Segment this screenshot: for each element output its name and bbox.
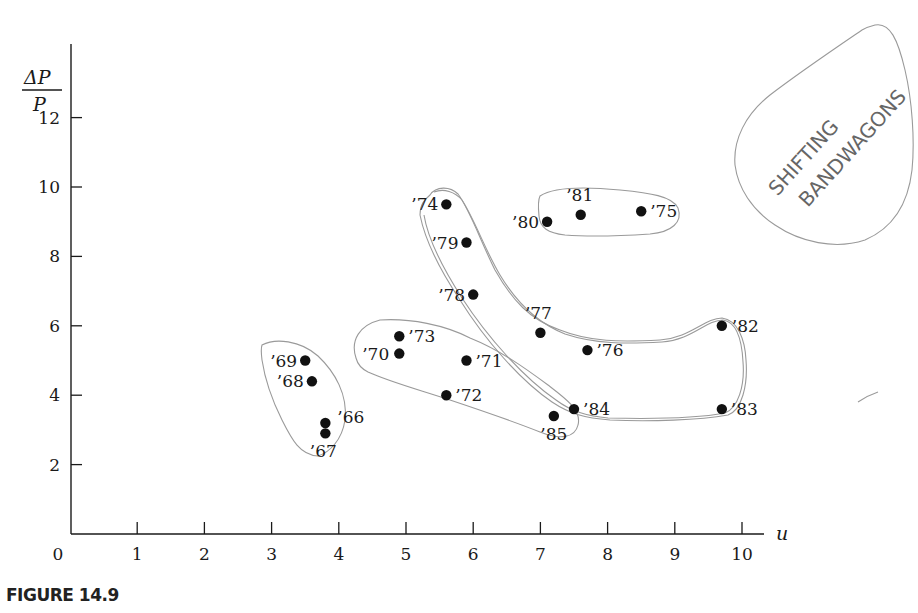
data-point: ’77 <box>525 303 552 338</box>
x-axis-title: u <box>776 522 788 544</box>
data-point: ’67 <box>310 428 337 461</box>
x-tick-label: 6 <box>468 544 479 564</box>
data-point: ’81 <box>566 185 593 220</box>
x-tick-label: 0 <box>53 544 64 564</box>
y-tick-label: 4 <box>49 385 60 405</box>
point-marker <box>576 210 586 220</box>
point-marker <box>582 345 592 355</box>
stray-pen-mark <box>858 392 878 402</box>
data-point: ’78 <box>438 285 478 305</box>
point-label: ’84 <box>583 399 610 419</box>
data-point: ’70 <box>362 344 404 364</box>
handwritten-annotation: SHIFTING BANDWAGONS <box>763 65 911 221</box>
point-marker <box>535 328 545 338</box>
point-label: ’69 <box>270 351 297 371</box>
data-point: ’72 <box>441 385 482 405</box>
point-label: ’79 <box>431 233 458 253</box>
x-axis-ticks: 012345678910 <box>53 522 753 564</box>
y-axis-ticks: 24681012 <box>38 108 82 475</box>
y-tick-label: 12 <box>38 108 60 128</box>
y-tick-label: 6 <box>49 316 60 336</box>
point-label: ’70 <box>362 344 389 364</box>
point-label: ’83 <box>731 399 758 419</box>
data-point: ’80 <box>512 212 552 232</box>
point-label: ’72 <box>455 385 482 405</box>
data-point: ’76 <box>582 340 623 360</box>
point-marker <box>300 355 310 365</box>
y-tick-label: 8 <box>49 246 60 266</box>
point-marker <box>468 289 478 299</box>
point-label: ’71 <box>475 351 502 371</box>
point-label: ’66 <box>337 407 364 427</box>
data-point: ’68 <box>277 371 317 391</box>
point-label: ’76 <box>596 340 623 360</box>
point-label: ’78 <box>438 285 465 305</box>
x-tick-label: 1 <box>132 544 143 564</box>
data-point: ’79 <box>431 233 471 253</box>
point-marker <box>717 404 727 414</box>
point-label: ’74 <box>411 194 438 214</box>
x-tick-label: 7 <box>535 544 546 564</box>
hand-drawn-loops <box>261 25 913 456</box>
point-label: ’85 <box>540 424 567 444</box>
loop-1970-1973-1985 <box>354 320 578 437</box>
point-marker <box>569 404 579 414</box>
point-marker <box>542 217 552 227</box>
data-point: ’71 <box>461 351 502 371</box>
point-label: ’80 <box>512 212 539 232</box>
point-marker <box>717 321 727 331</box>
point-label: ’77 <box>525 303 552 323</box>
data-point: ’66 <box>320 407 364 428</box>
point-marker <box>461 237 471 247</box>
data-point: ’69 <box>270 351 310 371</box>
data-point: ’74 <box>411 194 451 214</box>
point-label: ’73 <box>408 326 435 346</box>
point-label: ’67 <box>310 441 337 461</box>
data-point: ’82 <box>717 316 759 336</box>
figure-caption: FIGURE 14.9 <box>6 585 119 605</box>
point-marker <box>394 348 404 358</box>
x-tick-label: 8 <box>602 544 613 564</box>
x-tick-label: 4 <box>333 544 344 564</box>
loop-1974-1984-retrace <box>424 190 743 418</box>
point-label: ’81 <box>566 185 593 205</box>
y-tick-label: 10 <box>38 177 60 197</box>
x-tick-label: 9 <box>669 544 680 564</box>
point-label: ’68 <box>277 371 304 391</box>
point-marker <box>461 355 471 365</box>
point-marker <box>636 206 646 216</box>
x-tick-label: 5 <box>401 544 412 564</box>
point-label: ’82 <box>732 316 759 336</box>
point-marker <box>394 331 404 341</box>
point-marker <box>320 418 330 428</box>
point-marker <box>320 428 330 438</box>
data-point: ’84 <box>569 399 610 419</box>
point-marker <box>441 199 451 209</box>
x-tick-label: 3 <box>266 544 277 564</box>
point-marker <box>441 390 451 400</box>
point-marker <box>549 411 559 421</box>
data-point: ’75 <box>636 201 677 221</box>
scatter-chart: ΔP P u 012345678910 24681012 SHIFTING BA… <box>0 0 918 613</box>
x-tick-label: 10 <box>731 544 753 564</box>
data-point: ’85 <box>540 411 567 444</box>
x-tick-label: 2 <box>199 544 210 564</box>
point-label: ’75 <box>650 201 677 221</box>
y-axis-title-numerator: ΔP <box>23 66 52 88</box>
data-point: ’73 <box>394 326 435 346</box>
point-marker <box>307 376 317 386</box>
y-tick-label: 2 <box>49 455 60 475</box>
